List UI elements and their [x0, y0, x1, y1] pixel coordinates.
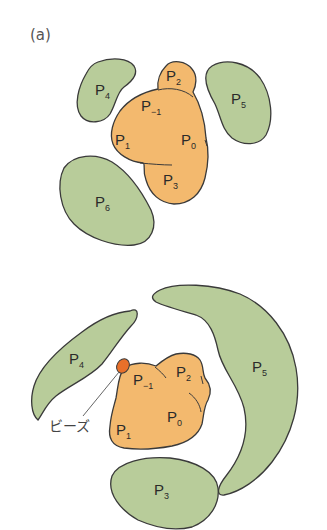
top-panel: P2 P−1 P1 P0 P3 P4 P5 P6: [60, 59, 271, 245]
panel-label: (a): [30, 26, 51, 44]
bottom-panel: ビーズ P−1 P2 P0 P1 P4 P5 P3: [32, 285, 298, 529]
domain-p6-top: [60, 156, 154, 245]
bead-label: ビーズ: [49, 418, 90, 434]
diagram-svg: P2 P−1 P1 P0 P3 P4 P5 P6: [0, 0, 327, 530]
diagram-figure: (a) P2 P−1 P1 P0 P3 P4 P5 P6: [0, 0, 327, 530]
